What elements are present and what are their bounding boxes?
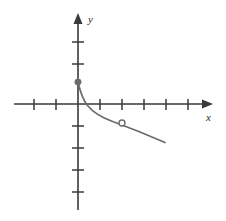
y-axis-arrow-icon: [74, 13, 83, 24]
graph-figure: y x: [0, 0, 226, 221]
y-axis-label: y: [87, 13, 93, 25]
function-curve: [78, 82, 165, 143]
closed-endpoint-marker: [75, 79, 81, 85]
x-axis-label: x: [205, 111, 211, 123]
x-axis-arrow-icon: [202, 100, 213, 109]
coordinate-plane-svg: y x: [0, 0, 226, 221]
open-hole-marker: [119, 120, 125, 126]
